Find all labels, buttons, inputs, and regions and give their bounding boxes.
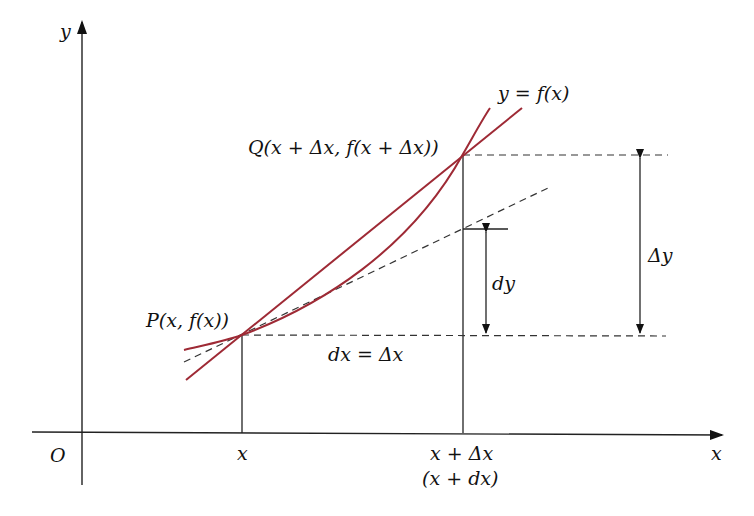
x-plus-dx-tick-label: x + Δx xyxy=(430,442,493,464)
curve-label: y = f(x) xyxy=(497,82,569,104)
point-q-label: Q(x + Δx, f(x + Δx)) xyxy=(248,136,439,158)
x-tick-label: x xyxy=(237,442,248,464)
x-plus-dx-alt-label: (x + dx) xyxy=(422,467,498,489)
y-axis-label: y xyxy=(59,20,71,42)
dy-label: dy xyxy=(492,272,515,294)
differential-diagram: y x O y = f(x) Q(x + Δx, f(x + Δx)) P(x,… xyxy=(0,0,754,516)
delta-y-label: Δy xyxy=(647,244,673,266)
x-axis-label: x xyxy=(711,442,722,464)
origin-label: O xyxy=(50,444,66,466)
point-p-label: P(x, f(x)) xyxy=(145,309,229,331)
dx-label: dx = Δx xyxy=(328,343,404,365)
x-axis xyxy=(32,432,722,435)
dashed-line-p-level xyxy=(242,335,666,336)
